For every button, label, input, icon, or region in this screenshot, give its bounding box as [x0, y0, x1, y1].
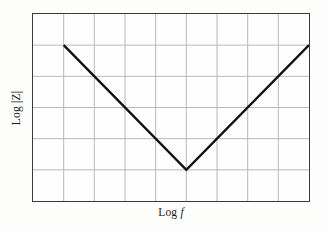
x-axis-label: Log f: [32, 206, 310, 218]
data-series-line: [33, 14, 309, 201]
x-axis-label-prefix: Log: [158, 206, 177, 218]
chart-figure: Log |Z| Log f: [0, 0, 328, 232]
y-axis-label-text: Log |Z|: [10, 90, 22, 124]
x-axis-label-variable: f: [180, 206, 183, 218]
plot-area: [32, 13, 310, 202]
series-log-z-polyline: [64, 45, 309, 170]
y-axis-label: Log |Z|: [0, 0, 32, 215]
